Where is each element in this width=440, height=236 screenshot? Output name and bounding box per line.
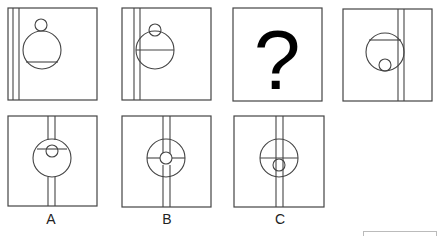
small-circle <box>46 145 58 157</box>
small-circle <box>379 59 391 71</box>
cut-off-box <box>363 231 437 236</box>
option-frame[interactable] <box>8 116 97 206</box>
big-circle <box>23 31 61 69</box>
option-label-a: A <box>41 211 61 227</box>
small-circle <box>160 152 172 164</box>
panel-2 <box>122 8 211 100</box>
option-label-b: B <box>157 211 177 227</box>
option-a[interactable] <box>8 116 97 206</box>
small-circle <box>149 24 161 36</box>
question-mark: ? <box>232 18 322 102</box>
small-circle <box>35 19 47 31</box>
option-frame[interactable] <box>234 116 324 207</box>
puzzle-canvas <box>0 0 440 236</box>
option-label-c: C <box>270 211 290 227</box>
panel-4 <box>343 9 432 101</box>
option-frame[interactable] <box>122 116 211 207</box>
panel-1 <box>8 8 97 100</box>
option-b[interactable] <box>122 116 211 207</box>
panel-frame <box>122 8 211 100</box>
option-c[interactable] <box>234 116 324 207</box>
panel-frame <box>8 8 97 100</box>
panel-frame <box>343 9 432 101</box>
